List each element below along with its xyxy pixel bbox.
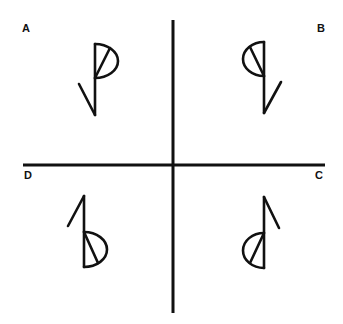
quadrant-label-b: B: [317, 22, 325, 34]
quadrant-label-d: D: [24, 169, 32, 181]
quadrant-label-c: C: [315, 169, 323, 181]
quadrant-label-a: A: [22, 22, 30, 34]
quadrant-diagram: A B C D: [0, 0, 343, 324]
